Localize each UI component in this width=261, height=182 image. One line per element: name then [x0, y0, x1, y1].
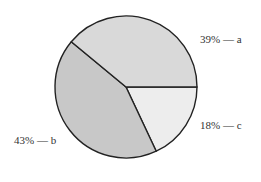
label-slice-b: 43% — b — [14, 134, 56, 146]
pie-chart — [0, 0, 261, 182]
label-slice-c: 18% — c — [200, 119, 242, 131]
label-slice-a: 39% — a — [200, 33, 242, 45]
pie-slices — [55, 16, 197, 158]
